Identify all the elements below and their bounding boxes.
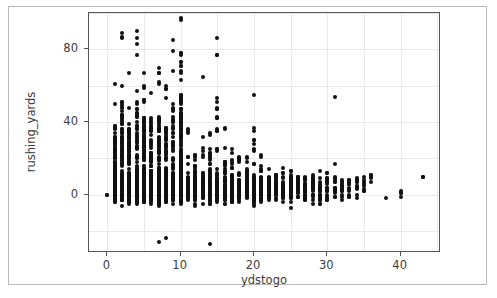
scatter-point (120, 144, 124, 148)
scatter-point (208, 162, 212, 166)
scatter-point (223, 171, 227, 175)
scatter-point (135, 89, 139, 93)
scatter-point (230, 166, 234, 170)
scatter-point (230, 182, 234, 186)
scatter-point (179, 202, 183, 206)
scatter-point (318, 169, 322, 173)
scatter-point (193, 204, 197, 208)
scatter-point (208, 193, 212, 197)
scatter-point (179, 78, 183, 82)
x-tick-mark (326, 252, 327, 256)
scatter-point (120, 164, 124, 168)
scatter-point (384, 196, 388, 200)
scatter-point (135, 193, 139, 197)
scatter-point (105, 193, 109, 197)
scatter-point (318, 202, 322, 206)
x-tick-mark (180, 252, 181, 256)
scatter-point (135, 100, 139, 104)
scatter-point (157, 144, 161, 148)
scatter-point (135, 115, 139, 119)
scatter-point (142, 135, 146, 139)
y-tick-mark (84, 194, 88, 195)
scatter-point (179, 93, 183, 97)
scatter-point (186, 162, 190, 166)
x-axis-label: ydstogo (88, 273, 440, 287)
scatter-point (157, 129, 161, 133)
scatter-point (245, 193, 249, 197)
scatter-point (171, 195, 175, 199)
x-tick-mark (400, 252, 401, 256)
scatter-point (171, 106, 175, 110)
scatter-point (318, 193, 322, 197)
x-tick-label: 40 (392, 258, 407, 272)
scatter-point (149, 91, 153, 95)
scatter-point (171, 166, 175, 170)
scatter-point (215, 100, 219, 104)
scatter-point (164, 133, 168, 137)
scatter-point (193, 198, 197, 202)
figure-root: 01020304004080 ydstogo rushing_yards (0, 0, 497, 298)
scatter-point (274, 191, 278, 195)
scatter-point (289, 178, 293, 182)
y-tick-mark (84, 48, 88, 49)
scatter-point (127, 106, 131, 110)
scatter-point (157, 162, 161, 166)
scatter-point (289, 206, 293, 210)
scatter-point (303, 195, 307, 199)
scatter-point (127, 122, 131, 126)
scatter-point (127, 135, 131, 139)
scatter-point (142, 155, 146, 159)
scatter-point (179, 155, 183, 159)
scatter-point (164, 87, 168, 91)
scatter-point (171, 38, 175, 42)
scatter-point (135, 160, 139, 164)
scatter-point (311, 195, 315, 199)
scatter-point (157, 149, 161, 153)
scatter-point (179, 135, 183, 139)
scatter-point (340, 198, 344, 202)
y-tick-label: 40 (63, 114, 78, 128)
scatter-point (135, 29, 139, 33)
scatter-point (340, 193, 344, 197)
scatter-point (164, 191, 168, 195)
scatter-point (296, 191, 300, 195)
scatter-point (120, 36, 124, 40)
scatter-point (149, 186, 153, 190)
scatter-point (171, 69, 175, 73)
scatter-point (135, 42, 139, 46)
scatter-point (135, 36, 139, 40)
scatter-point (120, 84, 124, 88)
scatter-point (281, 176, 285, 180)
scatter-point (164, 96, 168, 100)
scatter-point (208, 173, 212, 177)
scatter-point (355, 178, 359, 182)
scatter-point (135, 124, 139, 128)
scatter-plot-axes (88, 12, 440, 252)
scatter-point (157, 204, 161, 208)
scatter-point (164, 144, 168, 148)
scatter-point (245, 182, 249, 186)
scatter-point (252, 93, 256, 97)
scatter-point (318, 184, 322, 188)
scatter-point (113, 144, 117, 148)
scatter-point (333, 95, 337, 99)
scatter-point (245, 175, 249, 179)
scatter-point (215, 167, 219, 171)
scatter-point (201, 75, 205, 79)
scatter-point (230, 151, 234, 155)
scatter-point (267, 193, 271, 197)
scatter-point (252, 129, 256, 133)
scatter-point (179, 142, 183, 146)
scatter-point (237, 160, 241, 164)
scatter-point (201, 195, 205, 199)
scatter-point (230, 200, 234, 204)
scatter-point (120, 186, 124, 190)
scatter-point (355, 196, 359, 200)
scatter-point (164, 166, 168, 170)
scatter-point (164, 153, 168, 157)
y-axis-label: rushing_yards (24, 92, 38, 173)
scatter-point (259, 186, 263, 190)
scatter-point (179, 164, 183, 168)
scatter-point (157, 240, 161, 244)
scatter-point (215, 107, 219, 111)
